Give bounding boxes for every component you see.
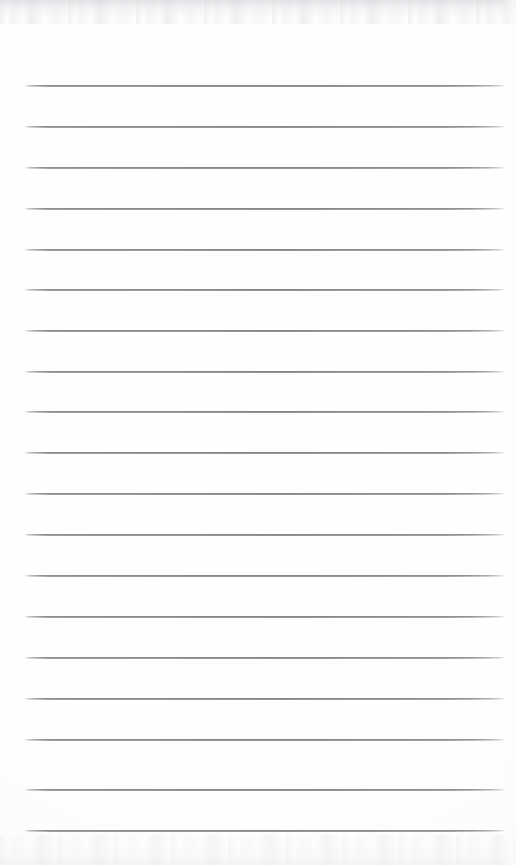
writing-area[interactable]	[24, 46, 504, 846]
notepad-page	[0, 0, 516, 865]
